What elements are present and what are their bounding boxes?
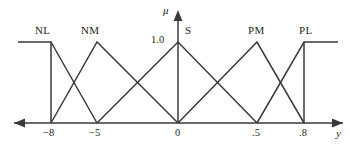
set-label-nl: NL — [35, 25, 50, 36]
set-label-s: S — [185, 25, 192, 36]
set-label-nm: NM — [81, 25, 100, 36]
x-axis-symbol: y — [336, 128, 341, 139]
set-label-pm: PM — [248, 25, 265, 36]
set-label-pl: PL — [299, 25, 313, 36]
mu-axis-arrowhead — [174, 10, 183, 21]
membership-curve-nm — [51, 42, 178, 123]
membership-curve-pm — [178, 42, 304, 123]
membership-curve-nl — [18, 42, 51, 123]
x-tick-label-neg5: −5 — [89, 128, 100, 139]
mu-axis-symbol: μ — [163, 5, 169, 16]
x-tick-label-pos8: .8 — [299, 128, 307, 139]
x-tick-label-neg8: −8 — [43, 128, 54, 139]
fuzzy-membership-figure: NL NM S PM PL μ 1.0 −8 −5 0 .5 .8 y — [0, 0, 355, 146]
x-tick-label-pos5: .5 — [252, 128, 260, 139]
x-tick-label-zero: 0 — [175, 128, 180, 139]
mu-max-value-label: 1.0 — [151, 35, 164, 46]
membership-curve-s — [97, 42, 257, 123]
membership-plot — [0, 0, 355, 146]
x-axis-left-arrowhead — [14, 119, 25, 128]
